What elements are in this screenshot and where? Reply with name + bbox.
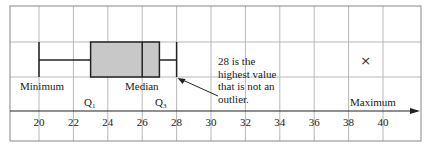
axis-tick-label: 30 [206, 116, 217, 128]
axis-tick-label: 34 [274, 116, 285, 128]
q1-subscript: 1 [92, 102, 96, 110]
outlier-marker-icon: × [360, 53, 371, 68]
annotation-arrow-line [183, 80, 218, 96]
axis-tick-label: 24 [102, 116, 113, 128]
axis-arrow-icon [410, 108, 420, 114]
q1-label: Q1 [84, 96, 95, 112]
axis-tick-label: 22 [68, 116, 79, 128]
q3-label: Q3 [155, 96, 166, 112]
interquartile-box [91, 42, 160, 77]
axis-tick-label: 38 [343, 116, 354, 128]
axis-tick-label: 26 [137, 116, 148, 128]
median-label: Median [125, 80, 159, 92]
axis-tick-label: 40 [378, 116, 389, 128]
maximum-label: Maximum [350, 96, 396, 108]
q3-letter: Q [155, 96, 163, 108]
outlier-annotation: 28 is the highest value that is not an o… [218, 55, 276, 105]
axis-tick-label: 32 [240, 116, 251, 128]
axis-tick-label: 20 [34, 116, 45, 128]
axis-tick-label: 28 [171, 116, 182, 128]
q3-subscript: 3 [163, 102, 167, 110]
q1-letter: Q [84, 96, 92, 108]
axis-tick-label: 36 [309, 116, 320, 128]
minimum-label: Minimum [20, 80, 64, 92]
